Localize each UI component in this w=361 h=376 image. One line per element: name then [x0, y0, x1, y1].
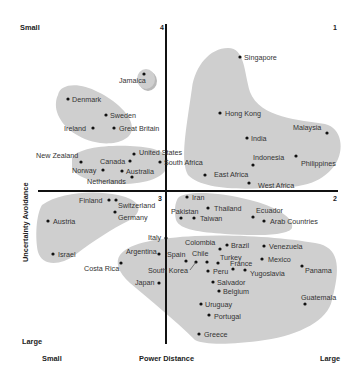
x-axis-line	[38, 190, 338, 192]
label-norway: Norway	[72, 166, 97, 175]
quadrant-1-label: 1	[333, 24, 337, 31]
label-taiwan: Taiwan	[200, 214, 222, 223]
label-mexico: Mexico	[268, 255, 291, 264]
label-colombia: Colombia	[185, 238, 215, 247]
label-peru: Peru	[213, 267, 228, 276]
label-guatemala: Guatemala	[301, 293, 336, 302]
label-finland: Finland	[79, 196, 103, 205]
label-panama: Panama	[305, 266, 332, 275]
label-australia: Australia	[126, 167, 154, 176]
label-india: India	[251, 134, 267, 143]
label-denmark: Denmark	[72, 95, 102, 104]
label-ecuador: Ecuador	[256, 206, 283, 215]
label-france: France	[230, 259, 252, 268]
label-south-africa: South Africa	[164, 158, 203, 167]
y-small-label: Small	[20, 23, 40, 32]
label-sweden: Sweden	[110, 111, 136, 120]
label-indonesia: Indonesia	[253, 153, 284, 162]
label-malaysia: Malaysia	[293, 123, 321, 132]
quadrant-3-label: 3	[158, 195, 162, 202]
label-netherlands: Netherlands	[87, 177, 126, 186]
y-axis-line	[165, 24, 167, 344]
label-brazil: Brazil	[231, 241, 249, 250]
x-small-label: Small	[42, 354, 62, 363]
label-pakistan: Pakistan	[171, 207, 199, 216]
y-axis-title: Uncertainty Avoidance	[21, 182, 30, 262]
label-greece: Greece	[204, 330, 228, 339]
label-chile: Chile	[192, 249, 208, 258]
label-portugal: Portugal	[214, 312, 241, 321]
x-axis-title: Power Distance	[139, 354, 194, 363]
label-uruguay: Uruguay	[205, 300, 233, 309]
label-costa-rica: Costa Rica	[84, 264, 119, 273]
label-ireland: Ireland	[64, 124, 86, 133]
label-germany: Germany	[118, 213, 148, 222]
label-arab-countries: Arab Countries	[270, 217, 318, 226]
cultural-dimensions-chart: 4 1 2 3 Small Large Small Power Distance…	[0, 0, 361, 376]
label-venezuela: Venezuela	[269, 242, 303, 251]
label-hong-kong: Hong Kong	[225, 109, 261, 118]
label-thailand: Thailand	[214, 204, 242, 213]
y-large-label: Large	[22, 337, 42, 346]
label-singapore: Singapore	[244, 53, 277, 62]
label-united-states: United States	[139, 148, 183, 157]
quadrant-4-label: 4	[160, 24, 164, 31]
label-argentina: Argentina	[126, 247, 157, 256]
label-jamaica: Jamaica	[119, 76, 146, 85]
label-salvador: Salvador	[217, 278, 246, 287]
quadrant-2-label: 2	[333, 195, 337, 202]
label-west-africa: West Africa	[258, 181, 294, 190]
label-canada: Canada	[100, 157, 125, 166]
label-italy: Italy	[148, 233, 162, 242]
label-philippines: Philippines	[301, 159, 336, 168]
label-new-zealand: New Zealand	[36, 151, 78, 160]
label-iran: Iran	[192, 193, 204, 202]
label-great-britain: Great Britain	[119, 124, 159, 133]
label-south-korea: South Korea	[148, 266, 188, 275]
label-belgium: Belgium	[223, 287, 249, 296]
x-large-label: Large	[320, 354, 340, 363]
label-switzerland: Switzerland	[118, 201, 155, 210]
label-japan: Japan	[135, 278, 155, 287]
label-east-africa: East Africa	[214, 170, 248, 179]
label-yugoslavia: Yugoslavia	[250, 269, 285, 278]
label-spain: Spain	[167, 250, 185, 259]
label-austria: Austria	[53, 217, 75, 226]
label-israel: Israel	[58, 250, 76, 259]
